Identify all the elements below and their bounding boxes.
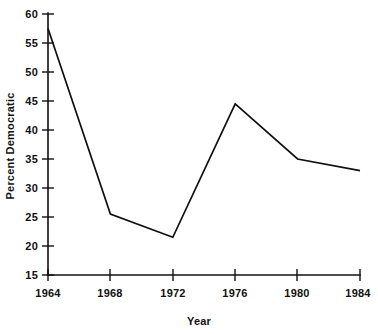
y-tick-label-35: 35	[25, 153, 38, 165]
y-tick-label-15: 15	[25, 269, 38, 281]
chart-figure: 60 55 50 45 40 35 30 25 20 15 1964 1968 …	[0, 0, 378, 334]
y-tick-label-45: 45	[25, 95, 38, 107]
x-tick-label-1972: 1972	[160, 287, 185, 299]
x-tick-label-1964: 1964	[35, 287, 61, 299]
x-axis-title: Year	[187, 315, 212, 327]
y-tick-label-20: 20	[25, 240, 38, 252]
x-tick-label-1984: 1984	[345, 287, 371, 299]
y-tick-label-55: 55	[25, 37, 38, 49]
y-tick-label-50: 50	[25, 66, 38, 78]
y-axis-title: Percent Democratic	[4, 93, 16, 200]
y-tick-label-60: 60	[25, 8, 38, 20]
y-tick-label-25: 25	[25, 211, 38, 223]
line-chart-canvas: 60 55 50 45 40 35 30 25 20 15 1964 1968 …	[0, 0, 378, 334]
x-tick-label-1968: 1968	[97, 287, 122, 299]
x-tick-label-1976: 1976	[222, 287, 247, 299]
y-tick-label-40: 40	[25, 124, 38, 136]
y-tick-label-30: 30	[25, 182, 38, 194]
x-tick-label-1980: 1980	[284, 287, 309, 299]
chart-background	[0, 0, 378, 334]
